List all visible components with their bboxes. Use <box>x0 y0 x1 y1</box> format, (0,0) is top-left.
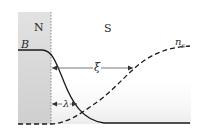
penetration-depth-label: λ <box>62 99 70 109</box>
superfluid-density-label: ns <box>175 37 185 50</box>
superconductor-shading <box>51 70 191 124</box>
superconductor-region-label: S <box>104 23 112 34</box>
magnetic-field-label: B <box>21 39 29 50</box>
superfluid-density-label-sub: s <box>181 42 185 50</box>
coherence-length-label: ξ <box>93 62 101 73</box>
normal-region-label: N <box>34 22 44 33</box>
